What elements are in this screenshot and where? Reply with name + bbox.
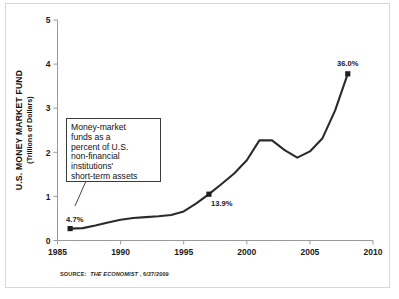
- annotation-callout: Money-marketfunds as apercent of U.S.non…: [67, 119, 161, 207]
- x-tick-label: 2000: [237, 247, 256, 257]
- x-tick-label: 1990: [111, 247, 130, 257]
- source-note-text: SOURCE: THE ECONOMIST , 6/27/2009: [60, 271, 169, 277]
- annotation-line: short-term assets: [71, 171, 137, 181]
- annotation-line: Money-market: [71, 122, 127, 132]
- y-axis-subtitle: (Trillions of Dollars): [25, 96, 34, 164]
- annotation-line: non-financial: [71, 151, 120, 161]
- annotation-line: percent of U.S.: [71, 142, 128, 152]
- data-point-marker: [68, 226, 73, 231]
- annotation-line: institutions': [71, 161, 114, 171]
- y-tick-label: 0: [46, 236, 51, 246]
- y-tick-label: 2: [46, 148, 51, 158]
- money-market-fund-line-chart: 012345 198519901995200020052010 U.S. MON…: [0, 0, 399, 299]
- y-axis-title: U.S. MONEY MARKET FUND: [14, 70, 24, 190]
- y-tick-label: 4: [46, 59, 51, 69]
- y-axis-title-group: U.S. MONEY MARKET FUND (Trillions of Dol…: [14, 70, 34, 190]
- x-tick-label: 2010: [364, 247, 383, 257]
- y-tick-label: 1: [46, 192, 51, 202]
- source-publication: THE ECONOMIST: [90, 271, 138, 277]
- source-prefix: SOURCE:: [60, 271, 87, 277]
- data-point-label: 36.0%: [337, 59, 359, 68]
- y-tick-label: 5: [46, 15, 51, 25]
- data-point-label: 13.9%: [211, 199, 233, 208]
- data-point-label: 4.7%: [66, 215, 84, 224]
- chart-figure: 012345 198519901995200020052010 U.S. MON…: [0, 0, 399, 299]
- y-axis-ticks: 012345: [46, 15, 58, 246]
- x-tick-label: 1985: [48, 247, 67, 257]
- annotation-line: funds as a: [71, 132, 111, 142]
- data-point-marker: [206, 192, 211, 197]
- x-tick-label: 2005: [300, 247, 319, 257]
- annotation-leader-line: [75, 181, 86, 206]
- source-note: SOURCE: THE ECONOMIST , 6/27/2009: [60, 271, 169, 277]
- source-date: , 6/27/2009: [140, 271, 169, 277]
- y-tick-label: 3: [46, 103, 51, 113]
- data-point-marker: [345, 71, 350, 76]
- x-axis-ticks: 198519901995200020052010: [48, 241, 383, 257]
- x-tick-label: 1995: [174, 247, 193, 257]
